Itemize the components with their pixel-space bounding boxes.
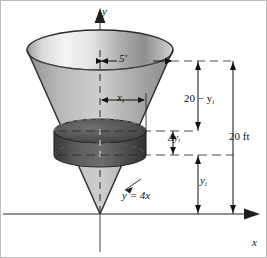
y-axis-label: y: [102, 6, 107, 17]
curve-equation-label: y = 4x: [122, 190, 150, 201]
slice-thickness-arrow-bottom: [170, 147, 176, 154]
lower-height-arrow-top: [195, 156, 201, 164]
lower-height-label-subscript: i: [205, 180, 207, 187]
total-height-arrow-top: [230, 62, 236, 70]
upper-height-label-base: 20 − y: [184, 92, 212, 104]
slice-radius-label: xi: [117, 92, 124, 104]
slice-thickness-label: Δyi: [168, 133, 180, 144]
upper-height-arrow-bottom: [195, 122, 201, 130]
disc-slice-group: [54, 119, 146, 167]
slice-thickness-label-base: Δy: [168, 132, 178, 143]
cone-volume-figure: y x 5' xi Δyi 20 − yi yi 20 ft y = 4x: [0, 0, 267, 258]
x-axis-arrowhead: [244, 209, 260, 220]
x-axis-label: x: [252, 237, 257, 248]
upper-height-label-subscript: i: [212, 98, 214, 105]
slice-radius-label-subscript: i: [122, 97, 124, 104]
slice-thickness-label-subscript: i: [178, 136, 180, 143]
total-height-label: 20 ft: [229, 131, 249, 142]
upper-height-label: 20 − yi: [184, 93, 214, 105]
lower-height-arrow-bottom: [195, 205, 201, 213]
top-diameter-label: 5': [119, 53, 127, 64]
figure-canvas: [1, 1, 267, 258]
upper-height-arrow-top: [195, 62, 201, 70]
total-height-arrow-bottom: [230, 205, 236, 213]
lower-height-label: yi: [200, 175, 207, 187]
